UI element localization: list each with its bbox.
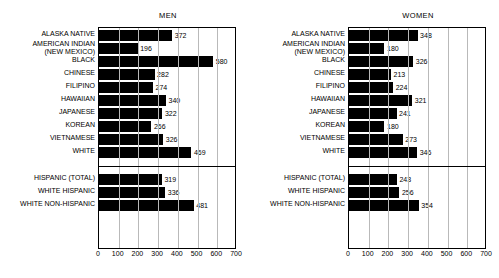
bar	[349, 134, 403, 145]
category-label: AMERICAN INDIAN(NEW MEXICO)	[0, 40, 95, 55]
category-label: CHINESE	[0, 69, 95, 77]
bar	[349, 43, 384, 54]
bar	[99, 134, 163, 145]
category-label-line: BLACK	[250, 56, 345, 64]
category-label: WHITE HISPANIC	[0, 187, 95, 195]
x-tick-label: 0	[96, 250, 100, 257]
bar	[349, 56, 413, 67]
x-tick-label: 100	[362, 250, 374, 257]
category-labels-men: ALASKA NATIVEAMERICAN INDIAN(NEW MEXICO)…	[0, 27, 95, 249]
category-label-line: WHITE NON-HISPANIC	[0, 200, 95, 208]
chart-title-women: WOMEN	[348, 11, 488, 20]
bar	[349, 147, 417, 158]
category-label-line: WHITE	[250, 147, 345, 155]
category-label: WHITE	[0, 147, 95, 155]
category-label-line: CHINESE	[0, 69, 95, 77]
bar	[349, 95, 412, 106]
bar-value-label: 256	[399, 187, 413, 198]
gridline-200	[388, 28, 389, 248]
x-tick-label: 400	[171, 250, 183, 257]
category-label: HISPANIC (TOTAL)	[250, 174, 345, 182]
bar	[99, 56, 213, 67]
gridline-500	[448, 28, 449, 248]
bar-value-label: 346	[417, 147, 431, 158]
category-label-line: KOREAN	[0, 121, 95, 129]
x-tick-label: 700	[480, 250, 492, 257]
x-tick-label: 0	[346, 250, 350, 257]
category-label: AMERICAN INDIAN(NEW MEXICO)	[250, 40, 345, 55]
x-axis-women: 0100200300400500600700	[348, 250, 486, 264]
category-labels-women: ALASKA NATIVEAMERICAN INDIAN(NEW MEXICO)…	[250, 27, 345, 249]
category-label: FILIPINO	[0, 82, 95, 90]
bar	[99, 187, 165, 198]
x-tick-label: 200	[382, 250, 394, 257]
gridline-200	[138, 28, 139, 248]
category-label-line: ALASKA NATIVE	[0, 30, 95, 38]
bar-value-label: 273	[403, 134, 417, 145]
bar-value-label: 319	[162, 174, 176, 185]
category-label: WHITE HISPANIC	[250, 187, 345, 195]
category-label: WHITE NON-HISPANIC	[250, 200, 345, 208]
category-label-line: CHINESE	[250, 69, 345, 77]
category-label-line: HISPANIC (TOTAL)	[0, 174, 95, 182]
bar-value-label: 224	[393, 82, 407, 93]
chart-panel-men: MEN ALASKA NATIVEAMERICAN INDIAN(NEW MEX…	[0, 0, 249, 278]
category-label: ALASKA NATIVE	[250, 30, 345, 38]
plot-area-women: 348180326213224321241180273346243256354	[348, 27, 486, 249]
bar	[99, 121, 151, 132]
bar-value-label: 348	[418, 30, 432, 41]
bar-value-label: 580	[213, 56, 227, 67]
bar	[349, 121, 384, 132]
category-label-line: WHITE HISPANIC	[0, 187, 95, 195]
category-label-line: WHITE HISPANIC	[250, 187, 345, 195]
group-separator	[99, 166, 235, 167]
bar	[349, 174, 397, 185]
category-label-line: VIETNAMESE	[0, 134, 95, 142]
category-label-line: AMERICAN INDIAN	[250, 40, 345, 48]
gridline-500	[198, 28, 199, 248]
bar-value-label: 326	[163, 134, 177, 145]
category-label: FILIPINO	[250, 82, 345, 90]
bar-value-label: 326	[413, 56, 427, 67]
x-tick-label: 500	[441, 250, 453, 257]
bar-value-label: 282	[155, 69, 169, 80]
x-tick-label: 300	[151, 250, 163, 257]
category-label: CHINESE	[250, 69, 345, 77]
bar-value-label: 196	[138, 43, 152, 54]
bar	[99, 95, 166, 106]
bar-value-label: 180	[384, 121, 398, 132]
bar	[99, 200, 194, 211]
category-label-line: VIETNAMESE	[250, 134, 345, 142]
plot-area-men: 372196580282274340322266326469319336481	[98, 27, 236, 249]
x-tick-label: 500	[191, 250, 203, 257]
bar-value-label: 213	[391, 69, 405, 80]
category-label: HAWAIIAN	[250, 95, 345, 103]
x-tick-label: 700	[230, 250, 242, 257]
category-label-line: BLACK	[0, 56, 95, 64]
category-label: WHITE	[250, 147, 345, 155]
bar-value-label: 322	[162, 108, 176, 119]
bar	[349, 187, 399, 198]
gridline-100	[369, 28, 370, 248]
bar-value-label: 321	[412, 95, 426, 106]
category-label: HAWAIIAN	[0, 95, 95, 103]
bar	[99, 30, 172, 41]
gridline-300	[158, 28, 159, 248]
gridline-400	[428, 28, 429, 248]
category-label-line: FILIPINO	[250, 82, 345, 90]
bar	[349, 69, 391, 80]
x-tick-label: 100	[112, 250, 124, 257]
bar-value-label: 180	[384, 43, 398, 54]
x-axis-men: 0100200300400500600700	[98, 250, 236, 264]
gridline-300	[408, 28, 409, 248]
bar-value-label: 372	[172, 30, 186, 41]
category-label: BLACK	[0, 56, 95, 64]
x-tick-label: 400	[421, 250, 433, 257]
bar	[99, 69, 155, 80]
category-label-line: WHITE	[0, 147, 95, 155]
bar	[99, 82, 153, 93]
category-label: JAPANESE	[250, 108, 345, 116]
category-label-line: KOREAN	[250, 121, 345, 129]
category-label: KOREAN	[250, 121, 345, 129]
category-label-line: ALASKA NATIVE	[250, 30, 345, 38]
